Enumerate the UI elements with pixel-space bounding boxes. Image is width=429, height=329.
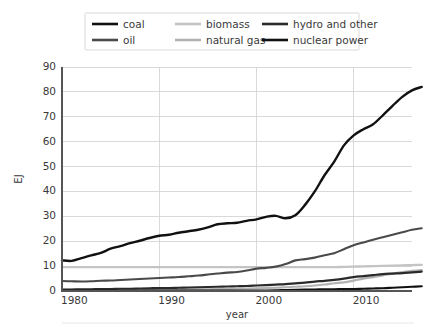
y-tick-label: 40: [43, 184, 56, 196]
y-tick-label: 80: [43, 85, 56, 97]
y-tick-label: 70: [43, 110, 56, 122]
y-tick-label: 90: [43, 60, 56, 72]
y-tick-label: 10: [43, 259, 56, 271]
legend-label: hydro and other: [293, 18, 378, 30]
legend-label: biomass: [206, 18, 250, 30]
legend-label: natural gas: [206, 34, 265, 46]
y-tick-label: 30: [43, 209, 56, 221]
legend-label: nuclear power: [293, 34, 369, 46]
y-tick-label: 50: [43, 160, 56, 172]
y-tick-label: 20: [43, 234, 56, 246]
chart-legend: coalbiomasshydro and otheroilnatural gas…: [85, 13, 378, 50]
x-axis-title: year: [226, 309, 249, 320]
energy-consumption-line-chart: coalbiomasshydro and otheroilnatural gas…: [0, 0, 429, 329]
x-tick-label: 2000: [255, 294, 282, 306]
x-tick-label: 1980: [61, 294, 88, 306]
y-tick-label: 60: [43, 135, 56, 147]
x-tick-label: 2010: [353, 294, 380, 306]
legend-label: oil: [123, 34, 135, 46]
x-tick-label: 1990: [158, 294, 185, 306]
y-tick-label: 0: [49, 284, 56, 296]
footer-rule: [62, 322, 414, 324]
y-axis-title: EJ: [13, 174, 24, 183]
legend-label: coal: [123, 18, 145, 30]
